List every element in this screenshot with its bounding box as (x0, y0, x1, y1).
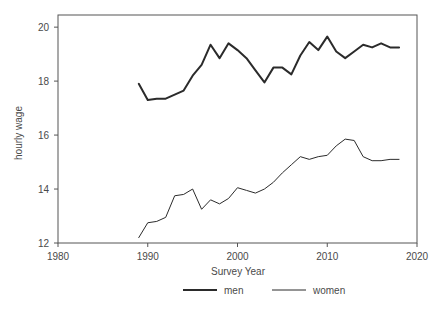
legend-label-men: men (224, 285, 243, 296)
line-chart: 19801990200020102020 1214161820 Survey Y… (0, 0, 439, 310)
y-tick-label: 18 (38, 76, 50, 87)
chart-legend: menwomen (183, 285, 345, 296)
x-axis-ticks (58, 243, 417, 247)
y-tick-label: 16 (38, 130, 50, 141)
x-axis-title: Survey Year (211, 266, 266, 277)
series-line-women (139, 139, 399, 237)
data-series-group (139, 37, 399, 238)
y-axis-tick-labels: 1214161820 (38, 22, 50, 249)
x-tick-label: 2010 (316, 251, 339, 262)
series-line-men (139, 37, 399, 100)
y-axis-ticks (54, 27, 58, 243)
x-axis-tick-labels: 19801990200020102020 (47, 251, 429, 262)
y-tick-label: 12 (38, 238, 50, 249)
chart-figure: 19801990200020102020 1214161820 Survey Y… (0, 0, 439, 310)
y-tick-label: 14 (38, 184, 50, 195)
x-tick-label: 2020 (406, 251, 429, 262)
x-tick-label: 1980 (47, 251, 70, 262)
y-axis-title: hourly wage (13, 106, 24, 160)
y-tick-label: 20 (38, 22, 50, 33)
legend-label-women: women (312, 285, 345, 296)
x-tick-label: 2000 (226, 251, 249, 262)
x-tick-label: 1990 (137, 251, 160, 262)
